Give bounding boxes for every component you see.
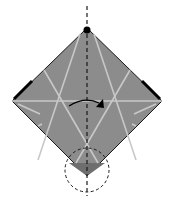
diagram-canvas bbox=[0, 0, 174, 207]
origami-diagram bbox=[0, 0, 174, 207]
reference-dot-icon bbox=[84, 27, 91, 34]
